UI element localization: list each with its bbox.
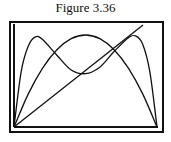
chart-plot [0, 0, 171, 142]
series-line [14, 25, 143, 127]
series-dome [14, 35, 157, 127]
